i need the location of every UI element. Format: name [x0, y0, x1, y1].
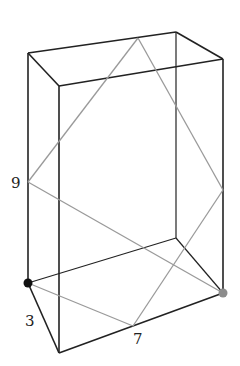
path-segment-2 [133, 190, 223, 326]
edge-top-left [28, 53, 59, 86]
shortest-path [28, 38, 223, 326]
start-point-dot [24, 279, 33, 288]
prism-edges [28, 32, 223, 353]
edge-bottom-back [28, 238, 176, 283]
end-point-dot [219, 289, 228, 298]
edge-bottom-right [176, 238, 223, 293]
length-label: 7 [133, 330, 143, 348]
edge-top-back [28, 32, 176, 53]
path-segment-5 [28, 182, 223, 293]
width-label: 3 [25, 312, 35, 330]
edge-top-front [59, 59, 223, 86]
path-segment-4 [28, 38, 138, 182]
edge-top-right [176, 32, 223, 59]
prism-diagram: 9 3 7 [0, 0, 240, 366]
height-label: 9 [11, 174, 21, 192]
